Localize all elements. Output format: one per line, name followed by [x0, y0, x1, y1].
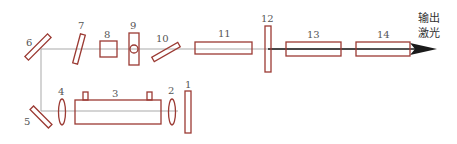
label-5: 5 [24, 116, 30, 127]
label-3: 3 [112, 88, 118, 99]
label-9: 9 [130, 20, 136, 31]
component-6: 6 [25, 34, 51, 60]
component-12: 12 [261, 13, 274, 72]
laser-setup-diagram: 1 2 3 4 5 6 7 8 9 [0, 0, 457, 144]
component-8: 8 [100, 29, 117, 57]
component-7: 7 [73, 20, 86, 64]
label-4: 4 [58, 86, 64, 97]
component-4: 4 [58, 86, 66, 125]
component-5: 5 [24, 106, 52, 128]
component-13: 13 [286, 29, 341, 56]
label-7: 7 [78, 20, 84, 31]
label-6: 6 [26, 37, 32, 48]
component-14: 14 [356, 29, 410, 56]
label-10: 10 [156, 33, 169, 44]
component-1: 1 [185, 79, 191, 133]
label-13: 13 [307, 29, 320, 40]
label-2: 2 [168, 85, 174, 96]
label-8: 8 [104, 29, 110, 40]
label-11: 11 [218, 28, 231, 39]
output-label-line2: 激光 [418, 26, 440, 40]
component-9: 9 [129, 20, 139, 65]
label-1: 1 [185, 79, 191, 90]
label-12: 12 [261, 13, 274, 24]
component-3: 3 [75, 88, 161, 124]
component-11: 11 [195, 28, 252, 54]
label-14: 14 [377, 29, 390, 40]
output-label-line1: 输出 [418, 11, 440, 25]
component-2: 2 [168, 85, 176, 125]
component-10: 10 [152, 33, 180, 62]
